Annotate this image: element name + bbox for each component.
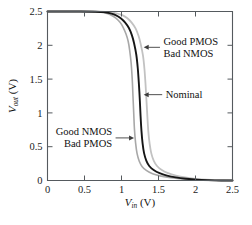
curve-annotations: Good PMOSBad NMOSNominalGood NMOSBad PMO…	[56, 36, 218, 150]
annotation-arrow-head	[129, 135, 134, 140]
x-axis-unit: (V)	[140, 196, 156, 209]
x-tick-label: 0	[45, 184, 50, 195]
x-tick-label: 1	[119, 184, 124, 195]
x-tick-label: 1.5	[152, 184, 165, 195]
y-tick-label: 1.5	[29, 74, 42, 85]
svg-text:Vin (V): Vin (V)	[125, 196, 156, 210]
annotation-line-2: Bad NMOS	[163, 48, 213, 59]
y-tick-label: 0.5	[29, 141, 42, 152]
y-axis-unit: (V)	[6, 79, 19, 95]
annotation-line-1: Good NMOS	[56, 126, 112, 137]
y-tick-label: 2	[37, 40, 42, 51]
annotation-arrow-head	[144, 45, 149, 50]
x-axis-tick-labels: 00.511.522.5	[45, 184, 239, 195]
annotation-line-2: Bad PMOS	[64, 138, 112, 149]
y-tick-label: 2.5	[29, 6, 42, 17]
y-tick-label: 1	[37, 108, 42, 119]
y-axis-title: Vout (V)	[6, 79, 20, 113]
x-tick-label: 2	[193, 184, 198, 195]
y-tick-label: 0	[37, 175, 42, 186]
annotation-good-nmos-bad-pmos: Good NMOSBad PMOS	[56, 126, 134, 149]
x-axis-title: Vin (V)	[125, 196, 156, 210]
y-axis-tick-labels: 00.511.522.5	[29, 6, 42, 186]
annotation-nominal: Nominal	[144, 89, 203, 100]
annotation-line-1: Nominal	[166, 89, 203, 100]
annotation-line-1: Good PMOS	[163, 36, 218, 47]
svg-text:Vout (V): Vout (V)	[6, 79, 20, 113]
x-tick-label: 0.5	[78, 184, 91, 195]
inverter-vtc-plot: 00.511.522.5 00.511.522.5 Good PMOSBad N…	[0, 0, 252, 225]
annotation-good-pmos-bad-nmos: Good PMOSBad NMOS	[144, 36, 218, 59]
vtc-chart-figure: 00.511.522.5 00.511.522.5 Good PMOSBad N…	[0, 0, 252, 225]
x-tick-label: 2.5	[226, 184, 239, 195]
